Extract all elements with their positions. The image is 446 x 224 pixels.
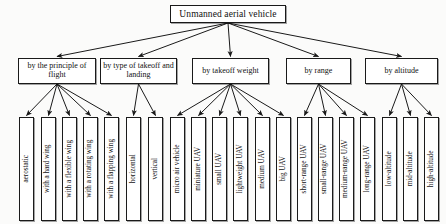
edge-range-to-small-range-uav [319, 84, 326, 116]
node-category-label: by range [305, 67, 333, 76]
node-leaf-label: with a flapping wing [108, 139, 116, 199]
node-leaf-label: long-range UAV [364, 145, 372, 193]
edge-principle-of-flight-to-with-a-rotating-wing [57, 84, 91, 116]
node-leaf-label: high-altitude [428, 151, 436, 188]
node-leaf-label: with a hard wing [45, 145, 53, 194]
edge-root-to-principle-of-flight [57, 23, 228, 57]
node-leaf-label: small UAV [216, 153, 224, 185]
node-leaf-label: with a flexible wing [66, 140, 74, 198]
node-leaf-medium-uav[interactable]: medium UAV [255, 117, 270, 221]
node-leaf-with-a-hard-wing[interactable]: with a hard wing [41, 117, 56, 221]
node-leaf-label: lightweight UAV [237, 144, 245, 193]
node-leaf-label: miniature UAV [195, 147, 203, 191]
node-leaf-with-a-flexible-wing[interactable]: with a flexible wing [62, 117, 77, 221]
edge-root-to-altitude [228, 23, 402, 57]
node-leaf-with-a-flapping-wing[interactable]: with a flapping wing [104, 117, 119, 221]
node-leaf-aerostatic[interactable]: aerostatic [19, 117, 34, 221]
node-leaf-low-altitude[interactable]: low-altitude [382, 117, 397, 221]
edge-range-to-long-range-uav [319, 84, 368, 116]
node-leaf-label: mid-altitude [407, 151, 415, 186]
node-category-label: by takeoff weight [202, 67, 258, 76]
node-leaf-label: horizontal [130, 154, 138, 183]
node-category-type-of-takeoff-and-landing[interactable]: by type of takeoff and landing [100, 58, 177, 84]
uav-classification-diagram: Unmanned aerial vehicle by the principle… [0, 0, 446, 224]
node-leaf-miniature-uav[interactable]: miniature UAV [191, 117, 206, 221]
node-root-label: Unmanned aerial vehicle [179, 9, 276, 19]
node-leaf-mid-altitude[interactable]: mid-altitude [403, 117, 418, 221]
node-leaf-label: vertical [152, 158, 160, 180]
node-root[interactable]: Unmanned aerial vehicle [170, 5, 286, 23]
node-leaf-high-altitude[interactable]: high-altitude [424, 117, 439, 221]
node-leaf-vertical[interactable]: vertical [148, 117, 163, 221]
node-leaf-big-uav[interactable]: big UAV [276, 117, 291, 221]
edge-type-of-takeoff-and-landing-to-vertical [139, 84, 156, 116]
node-category-label: by type of takeoff and landing [102, 62, 175, 79]
node-category-altitude[interactable]: by altitude [365, 58, 438, 84]
node-leaf-small-range-uav[interactable]: small-range UAV [318, 117, 333, 221]
node-leaf-label: short-range UAV [301, 144, 309, 193]
node-category-label: by the principle of flight [20, 62, 94, 79]
node-leaf-label: with a rotating wing [87, 140, 95, 198]
node-leaf-label: aerostatic [23, 155, 31, 183]
edge-altitude-to-low-altitude [390, 84, 402, 116]
node-leaf-label: medium-range UAV [343, 140, 351, 198]
edge-root-to-range [228, 23, 319, 57]
edge-principle-of-flight-to-with-a-flexible-wing [57, 84, 70, 116]
node-category-range[interactable]: by range [286, 58, 351, 84]
edge-root-to-type-of-takeoff-and-landing [139, 23, 229, 57]
node-leaf-lightweight-uav[interactable]: lightweight UAV [233, 117, 248, 221]
node-leaf-label: low-altitude [386, 152, 394, 187]
node-leaf-short-range-uav[interactable]: short-range UAV [297, 117, 312, 221]
node-category-label: by altitude [385, 67, 419, 76]
node-category-takeoff-weight[interactable]: by takeoff weight [192, 58, 269, 84]
node-leaf-label: small-range UAV [322, 144, 330, 194]
node-leaf-medium-range-uav[interactable]: medium-range UAV [339, 117, 354, 221]
node-leaf-horizontal[interactable]: horizontal [126, 117, 141, 221]
node-category-principle-of-flight[interactable]: by the principle of flight [18, 58, 96, 84]
node-leaf-label: medium UAV [259, 149, 267, 189]
node-leaf-label: micro air vehicle [174, 145, 182, 194]
node-leaf-label: big UAV [280, 156, 288, 182]
node-leaf-small-uav[interactable]: small UAV [212, 117, 227, 221]
node-leaf-with-a-rotating-wing[interactable]: with a rotating wing [83, 117, 98, 221]
edge-root-to-takeoff-weight [228, 23, 231, 57]
edge-type-of-takeoff-and-landing-to-horizontal [134, 84, 139, 116]
edge-principle-of-flight-to-with-a-flapping-wing [57, 84, 112, 116]
edge-range-to-short-range-uav [305, 84, 319, 116]
node-leaf-long-range-uav[interactable]: long-range UAV [360, 117, 375, 221]
node-leaf-micro-air-vehicle[interactable]: micro air vehicle [170, 117, 185, 221]
